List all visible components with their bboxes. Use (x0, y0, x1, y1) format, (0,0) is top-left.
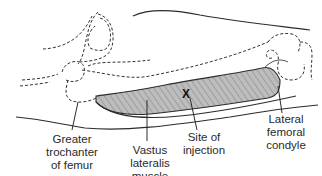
label-site-of-injection: Site of injection (180, 131, 228, 157)
skin-outline-top (133, 11, 310, 30)
label-greater-trochanter: Greater trochanter of femur (42, 133, 102, 172)
label-lateral-femoral-condyle: Lateral femoral condyle (263, 113, 309, 152)
injection-site-marker: X (182, 87, 190, 101)
label-vastus-lateralis: Vastus lateralis muscle (125, 144, 175, 176)
